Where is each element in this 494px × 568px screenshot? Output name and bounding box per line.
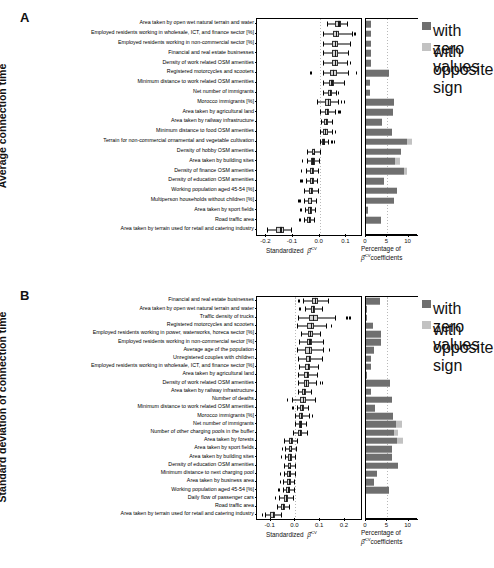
median-line xyxy=(311,188,312,194)
whisker-cap-low xyxy=(292,397,293,402)
whisker-cap-low xyxy=(304,188,305,193)
category-label: Morocco immigrants [%] xyxy=(197,97,254,105)
whisker-cap-high xyxy=(309,414,310,419)
bar-segment-zero-values xyxy=(366,347,374,354)
outlier-point xyxy=(281,456,282,459)
bar-row xyxy=(366,206,418,216)
category-label: Area taken by terrain used for retail an… xyxy=(121,225,254,233)
median-line xyxy=(306,380,307,386)
boxplot-row xyxy=(257,297,361,305)
whisker-cap-low xyxy=(317,100,318,105)
outlier-point xyxy=(331,324,332,327)
whisker-cap-low xyxy=(321,120,322,125)
category-label: Density of education OSM amenities xyxy=(168,176,254,184)
median-line xyxy=(338,21,339,27)
whisker-cap-high xyxy=(316,198,317,203)
bar-segment-zero-values xyxy=(366,454,392,461)
median-line xyxy=(291,438,292,444)
bar-segment-zero-values xyxy=(366,405,375,412)
category-label: Minimum distance to food OSM amenities xyxy=(156,127,254,135)
stacked-bar xyxy=(366,446,392,453)
bar-x-tick-label: 5 xyxy=(385,522,388,528)
stacked-bar xyxy=(366,413,393,420)
median-line xyxy=(309,217,310,223)
bar-x-tick-label: 10 xyxy=(404,238,411,244)
whisker-cap-low xyxy=(305,307,306,312)
bar-row xyxy=(366,478,418,486)
category-label: Minimum distance to next charging pool xyxy=(161,469,254,477)
boxplot-row xyxy=(257,127,361,137)
outlier-point xyxy=(298,300,299,303)
bar-segment-zero-values xyxy=(366,331,381,338)
whisker-cap-low xyxy=(298,356,299,361)
stacked-bar xyxy=(366,217,381,224)
bar-row xyxy=(366,494,418,502)
category-label: Area taken by agricultural land xyxy=(182,370,254,378)
bar-axis-title-line2: coefficients xyxy=(370,538,402,545)
bar-x-tick-label: 0 xyxy=(363,522,366,528)
whisker-cap-low xyxy=(295,414,296,419)
category-label: Employed residents working in power, wat… xyxy=(93,329,254,337)
boxplot-row xyxy=(257,387,361,395)
stacked-bar xyxy=(366,322,373,329)
whisker-cap-high xyxy=(348,70,349,75)
whisker-cap-high xyxy=(347,21,348,26)
category-label: Registered motorcycles and scooters xyxy=(167,321,254,329)
outlier-point xyxy=(312,415,313,418)
whisker-cap-low xyxy=(323,70,324,75)
stacked-bar xyxy=(366,470,377,477)
outlier-point xyxy=(280,480,281,483)
median-line xyxy=(313,314,314,320)
bar-x-tick-label: 0 xyxy=(363,238,366,244)
whisker-cap-high xyxy=(281,512,282,517)
boxplot-row xyxy=(257,313,361,321)
outlier-point xyxy=(302,160,303,163)
outlier-point xyxy=(344,101,345,104)
median-line xyxy=(315,298,316,304)
stacked-bar xyxy=(366,380,390,387)
category-label: Density of work related OSM amenities xyxy=(162,58,254,66)
whisker-cap-low xyxy=(277,504,278,509)
x-tick-label: 0.0 xyxy=(290,522,298,528)
outlier-point xyxy=(338,91,339,94)
bar-row xyxy=(366,48,418,58)
stacked-bar xyxy=(366,347,374,354)
bar-segment-zero-values xyxy=(366,217,381,224)
median-line xyxy=(312,168,313,174)
whisker-cap-high xyxy=(307,430,308,435)
bar-segment-zero-values xyxy=(366,109,393,116)
boxplot-row xyxy=(257,453,361,461)
whisker-cap-high xyxy=(326,323,327,328)
category-label: Area taken by railway infrastructure xyxy=(171,117,254,125)
category-label: Working population aged 45-54 [%] xyxy=(171,485,254,493)
whisker-low xyxy=(303,301,312,302)
boxplot-row xyxy=(257,396,361,404)
x-tick-label: -0.1 xyxy=(264,522,274,528)
bar-row xyxy=(366,215,418,225)
boxplot-row xyxy=(257,29,361,39)
category-label: Number of other charging pools in the bu… xyxy=(150,428,254,436)
whisker-low xyxy=(323,43,332,44)
bar-row xyxy=(366,68,418,78)
whisker-cap-low xyxy=(284,463,285,468)
stacked-bar xyxy=(366,129,392,136)
bar-segment-zero-values xyxy=(366,388,371,395)
whisker-cap-high xyxy=(295,455,296,460)
bar-segment-zero-values xyxy=(366,479,374,486)
bar-row xyxy=(366,196,418,206)
stacked-bar xyxy=(366,168,407,175)
whisker-cap-high xyxy=(316,381,317,386)
boxplot-row xyxy=(257,117,361,127)
stacked-bar xyxy=(366,188,397,195)
bar-row xyxy=(366,445,418,453)
boxplot-row xyxy=(257,206,361,216)
median-line xyxy=(335,40,336,46)
bar-segment-zero-values xyxy=(366,372,367,379)
boxplot-row xyxy=(257,470,361,478)
median-line xyxy=(309,356,310,362)
median-line xyxy=(311,198,312,204)
whisker-low xyxy=(292,399,300,400)
median-line xyxy=(304,388,305,394)
whisker-cap-low xyxy=(298,315,299,320)
whisker-high xyxy=(331,102,338,103)
